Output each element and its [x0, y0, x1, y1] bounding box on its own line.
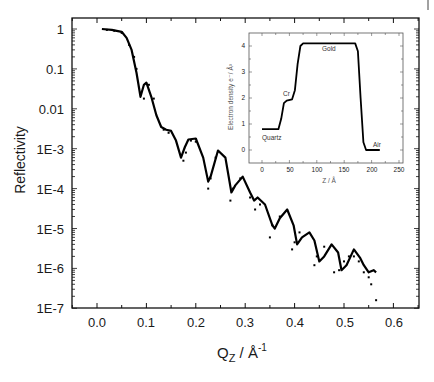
annotation-quartz: Quartz [262, 134, 282, 142]
annotation-air: Air [373, 141, 382, 148]
y-tick-label: 0.01 [39, 102, 64, 117]
y-tick-label: 1E-4 [37, 182, 64, 197]
inset-x-tick-label: 0 [260, 166, 264, 173]
inset-y-tick-label: 3 [241, 68, 245, 75]
inset-chart: 0 50 100 150 200 250 4 3 2 1 0 Z / Å Ele… [226, 33, 405, 184]
inset-y-tick-label: 4 [241, 42, 245, 49]
inset-y-tick-label: 0 [241, 146, 245, 153]
y-tick-label: 0.1 [46, 62, 64, 77]
x-tick-label: 0.5 [336, 315, 354, 330]
x-tick-label: 0.3 [236, 315, 254, 330]
inset-y-axis-label: Electron density e⁻/ Å³ [226, 63, 235, 130]
inset-x-tick-labels: 0 50 100 150 200 250 [260, 166, 405, 173]
x-axis-label: QZ / Å-1 [217, 342, 267, 364]
x-tick-label: 0.0 [88, 315, 106, 330]
y-tick-label: 1E-3 [37, 142, 64, 157]
inset-x-tick-label: 100 [312, 166, 323, 173]
annotation-gold: Gold [322, 45, 336, 52]
inset-x-tick-label: 50 [286, 166, 294, 173]
inset-x-tick-label: 250 [394, 166, 405, 173]
y-tick-label: 1 [57, 22, 64, 37]
y-tick-label: 1E-7 [37, 301, 64, 316]
inset-y-tick-label: 1 [241, 120, 245, 127]
y-axis-label: Reflectivity [12, 126, 28, 194]
inset-y-tick-label: 2 [241, 94, 245, 101]
annotation-cr: Cr [283, 90, 291, 97]
x-tick-label: 0.4 [286, 315, 304, 330]
y-tick-label: 1E-5 [37, 222, 64, 237]
x-tick-label: 0.2 [187, 315, 205, 330]
x-tick-label: 0.6 [385, 315, 403, 330]
inset-x-tick-label: 150 [339, 166, 350, 173]
x-tick-labels: 0.0 0.1 0.2 0.3 0.4 0.5 0.6 [88, 315, 403, 330]
inset-x-axis-label: Z / Å [322, 176, 336, 184]
y-tick-labels: 1 0.1 0.01 1E-3 1E-4 1E-5 1E-6 1E-7 [37, 22, 64, 316]
y-tick-label: 1E-6 [37, 261, 64, 276]
inset-x-tick-label: 200 [367, 166, 378, 173]
inset-y-tick-labels: 4 3 2 1 0 [241, 42, 245, 153]
x-tick-label: 0.1 [137, 315, 155, 330]
reflectivity-chart: 0.0 0.1 0.2 0.3 0.4 0.5 0.6 1 0.1 0.01 1… [0, 0, 434, 382]
